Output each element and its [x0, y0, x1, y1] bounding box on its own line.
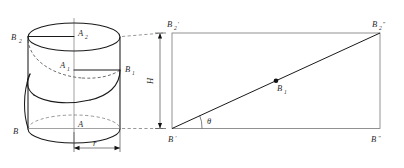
label-b2: B	[11, 32, 16, 42]
radius-arrow-left	[74, 146, 80, 150]
helix-back-upper-tail	[82, 70, 120, 78]
height-dimension: H	[145, 33, 166, 129]
label-a: A	[77, 119, 84, 129]
label-b-dprime: B	[371, 134, 376, 144]
height-arrow-bottom	[158, 123, 162, 129]
label-b2-prime: B	[167, 19, 172, 29]
development-group: B 2 ′ B 2 ″ B ′ B ″ B 1 θ	[167, 19, 386, 144]
label-b-prime: B	[168, 134, 173, 144]
label-b-dprime-mark: ″	[378, 134, 381, 141]
label-b2-dprime-mark: ″	[383, 20, 386, 27]
helix-front-middle	[34, 95, 90, 103]
label-b-prime-mark: ′	[175, 134, 177, 141]
label-b1-cyl-subscript: 1	[132, 70, 135, 76]
connector-top	[122, 33, 163, 37]
label-a1-subscript: 1	[67, 66, 70, 72]
label-radius-r: r	[93, 138, 97, 148]
figure-root: B 2 A 2 A 1 B 1 B A r H	[0, 0, 404, 168]
label-height-h: H	[145, 77, 155, 85]
angle-arc	[200, 115, 203, 128]
label-a2: A	[77, 28, 84, 38]
projection-connectors	[122, 33, 163, 129]
label-b: B	[13, 126, 18, 136]
helix-front-upper	[90, 70, 120, 100]
radius-arrow-right	[115, 146, 121, 150]
cylinder-group: B 2 A 2 A 1 B 1 B A r	[11, 18, 135, 152]
label-b2-prime-mark: ′	[178, 20, 180, 27]
label-theta: θ	[207, 116, 211, 126]
diagram-canvas: B 2 A 2 A 1 B 1 B A r H	[0, 0, 404, 168]
label-b1-cyl: B	[125, 64, 130, 74]
label-b2-dprime: B	[372, 19, 377, 29]
label-b2-subscript: 2	[19, 38, 22, 44]
label-b1-dev: B	[277, 83, 282, 93]
label-a1: A	[59, 60, 66, 70]
height-arrow-top	[158, 33, 162, 39]
helix-front-lower	[25, 74, 31, 128]
label-a2-subscript: 2	[85, 34, 88, 40]
label-b1-dev-subscript: 1	[284, 89, 287, 95]
